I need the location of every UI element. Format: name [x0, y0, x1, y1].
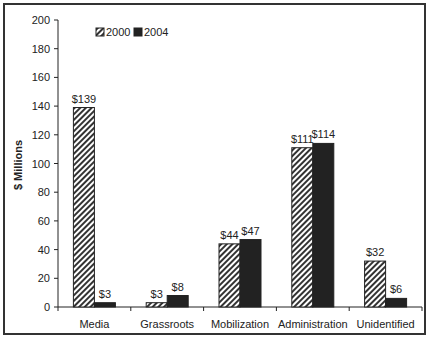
y-tick-label: 0: [44, 301, 50, 313]
y-tick-label: 20: [38, 272, 50, 284]
bar-2000: [146, 303, 167, 307]
bar-value-label: $3: [151, 288, 163, 300]
bar-value-label: $8: [172, 281, 184, 293]
x-tick-label: Grassroots: [140, 318, 194, 330]
x-tick-label: Unidentified: [357, 318, 415, 330]
bar-value-label: $44: [220, 229, 238, 241]
bar-2000: [365, 261, 386, 307]
legend-swatch-2004: [134, 28, 142, 36]
bar-value-label: $111: [291, 133, 314, 145]
bar-value-label: $114: [311, 128, 335, 140]
bar-2004: [386, 298, 407, 307]
x-tick-label: Administration: [278, 318, 348, 330]
legend-swatch-2000: [96, 28, 104, 36]
y-tick-label: 180: [32, 43, 50, 55]
y-axis-label: $ Millions: [12, 140, 24, 190]
bar-value-label: $139: [72, 93, 96, 105]
bar-value-label: $47: [241, 225, 259, 237]
legend-label-2000: 2000: [106, 26, 130, 38]
bar-value-label: $6: [390, 283, 402, 295]
y-tick-label: 80: [38, 186, 50, 198]
bar-2000: [292, 148, 313, 307]
bar-2000: [73, 108, 94, 307]
x-tick-label: Mobilization: [211, 318, 269, 330]
legend-label-2004: 2004: [144, 26, 168, 38]
y-tick-label: 140: [32, 100, 50, 112]
y-tick-label: 200: [32, 14, 50, 26]
y-tick-label: 120: [32, 129, 50, 141]
bars: $139$3$3$8$44$47$111$114$32$6: [72, 93, 407, 307]
bar-2004: [240, 240, 261, 307]
bar-2000: [219, 244, 240, 307]
y-tick-label: 60: [38, 215, 50, 227]
bar-value-label: $32: [366, 246, 384, 258]
y-tick-label: 40: [38, 244, 50, 256]
x-tick-label: Media: [79, 318, 110, 330]
bar-2004: [167, 296, 188, 307]
bar-chart: 020406080100120140160180200MediaGrassroo…: [0, 0, 435, 342]
y-tick-label: 100: [32, 158, 50, 170]
bar-value-label: $3: [99, 288, 111, 300]
legend: 20002004: [96, 26, 168, 38]
bar-2004: [313, 143, 334, 307]
bar-2004: [94, 303, 115, 307]
y-tick-label: 160: [32, 71, 50, 83]
